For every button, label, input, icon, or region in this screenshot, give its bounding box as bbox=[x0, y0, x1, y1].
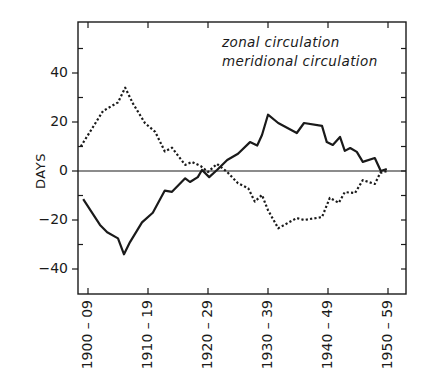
y-tick-label: −20 bbox=[38, 211, 68, 227]
y-axis-title: DAYS bbox=[33, 153, 48, 189]
x-tick-label: 1900 – 09 bbox=[79, 300, 95, 369]
chart-figure: 40200−20−40 1900 – 091910 – 191920 – 291… bbox=[0, 0, 429, 388]
x-tick-label: 1950 – 59 bbox=[379, 300, 395, 369]
legend-meridional-label: meridional circulation bbox=[222, 53, 378, 69]
y-tick-label: 40 bbox=[50, 64, 68, 80]
legend-zonal-label: zonal circulation bbox=[221, 34, 340, 50]
y-axis-ticks: 40200−20−40 bbox=[38, 49, 406, 277]
zonal-circulation-line bbox=[83, 115, 387, 255]
x-axis-ticks: 1900 – 091910 – 191920 – 291930 – 391940… bbox=[79, 22, 395, 369]
x-tick-label: 1920 – 29 bbox=[199, 300, 215, 369]
x-tick-label: 1930 – 39 bbox=[259, 300, 275, 369]
y-tick-label: 0 bbox=[59, 162, 68, 178]
y-tick-label: −40 bbox=[38, 260, 68, 276]
y-tick-label: 20 bbox=[50, 113, 68, 129]
x-tick-label: 1910 – 19 bbox=[139, 300, 155, 369]
meridional-circulation-line bbox=[81, 88, 387, 229]
x-tick-label: 1940 – 49 bbox=[319, 300, 335, 369]
